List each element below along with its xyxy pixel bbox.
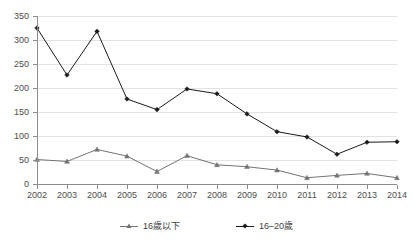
y-axis-tick: [33, 40, 37, 41]
y-axis-tick: [33, 16, 37, 17]
diamond-marker-icon: [236, 222, 254, 231]
x-axis-tick: [187, 185, 188, 189]
data-point-marker: [335, 152, 340, 157]
data-point-marker: [395, 139, 400, 144]
x-axis-tick: [97, 185, 98, 189]
x-axis-tick: [367, 185, 368, 189]
y-tick-label: 300: [14, 36, 29, 45]
x-axis-tick: [37, 185, 38, 189]
triangle-marker-icon: [120, 222, 138, 231]
y-tick-label: 50: [19, 156, 29, 165]
x-tick-label: 2013: [357, 190, 377, 200]
x-axis-tick: [277, 185, 278, 189]
data-point-marker: [155, 169, 160, 173]
x-axis-tick: [67, 185, 68, 189]
data-point-marker: [365, 140, 370, 145]
y-axis-tick: [33, 112, 37, 113]
legend-label: 16–20歲: [259, 221, 293, 231]
series-1: [35, 147, 400, 180]
x-axis-tick: [217, 185, 218, 189]
x-tick-label: 2008: [207, 190, 227, 200]
y-tick-label: 0: [24, 180, 29, 189]
x-tick-label: 2011: [297, 190, 316, 200]
series-2: [35, 26, 400, 157]
y-tick-label: 250: [14, 60, 29, 69]
y-axis-tick: [33, 136, 37, 137]
legend-label: 16歲以下: [143, 221, 180, 231]
data-point-marker: [185, 153, 190, 157]
x-tick-label: 2004: [87, 190, 107, 200]
x-axis-tick: [247, 185, 248, 189]
x-tick-label: 2005: [117, 190, 137, 200]
legend-item-1[interactable]: 16歲以下: [120, 221, 180, 231]
x-tick-label: 2003: [57, 190, 77, 200]
y-axis-tick: [33, 64, 37, 65]
x-axis-tick: [157, 185, 158, 189]
chart-legend: 16歲以下16–20歲: [0, 216, 413, 236]
y-tick-label: 200: [14, 84, 29, 93]
plot-area: [37, 16, 397, 184]
y-axis-line: [37, 16, 38, 185]
data-point-marker: [275, 129, 280, 134]
y-tick-label: 150: [14, 108, 29, 117]
x-axis-tick: [307, 185, 308, 189]
y-tick-label: 350: [14, 12, 29, 21]
y-tick-label: 100: [14, 132, 29, 141]
x-tick-label: 2014: [387, 190, 407, 200]
x-tick-label: 2002: [27, 190, 47, 200]
x-tick-label: 2012: [327, 190, 347, 200]
x-tick-label: 2009: [237, 190, 257, 200]
y-axis-tick: [33, 88, 37, 89]
y-axis-tick: [33, 160, 37, 161]
y-axis-labels: 050100150200250300350: [0, 0, 33, 244]
x-axis-tick: [127, 185, 128, 189]
x-tick-label: 2010: [267, 190, 287, 200]
line-chart: 050100150200250300350 200220032004200520…: [0, 0, 413, 244]
x-axis-tick: [397, 185, 398, 189]
x-axis-labels: 2002200320042005200620072008200920102011…: [0, 190, 413, 206]
legend-item-2[interactable]: 16–20歲: [236, 221, 293, 231]
x-axis-tick: [337, 185, 338, 189]
data-point-marker: [305, 135, 310, 140]
data-point-marker: [125, 97, 130, 102]
x-tick-label: 2007: [177, 190, 197, 200]
data-point-marker: [95, 147, 100, 151]
x-tick-label: 2006: [147, 190, 167, 200]
series-layer: [37, 16, 397, 184]
